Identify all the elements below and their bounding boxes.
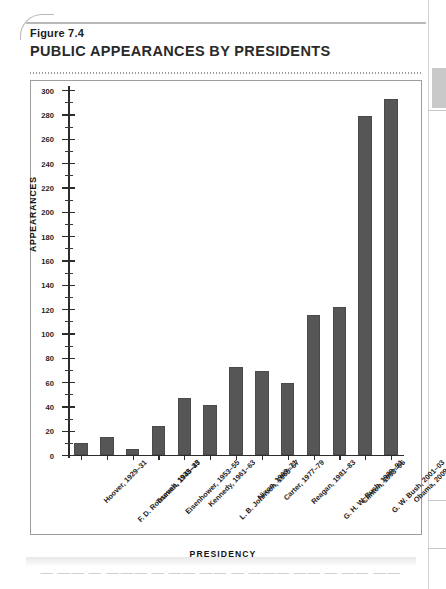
page-bottom-text-blur: ⸺ ⸺⸺ ⸺ ⸺⸺⸺ ⸺ ⸺⸺ ⸺⸺ ⸺ ⸺⸺⸺ ⸺⸺ ⸺ ⸺⸺ ⸺⸺⸺ ⸺ ⸺…: [40, 567, 400, 575]
y-tick-label: 160: [41, 257, 54, 266]
bar: [281, 383, 295, 455]
figure-title: PUBLIC APPEARANCES BY PRESIDENTS: [30, 42, 410, 61]
bar: [255, 371, 269, 455]
y-tick-label: 80: [46, 354, 54, 363]
y-tick-label: 200: [41, 208, 54, 217]
figure-divider: [30, 72, 422, 74]
y-tick-label: 100: [41, 330, 54, 339]
bar: [126, 449, 140, 455]
bar: [100, 437, 114, 455]
page-edge-tab: [432, 68, 446, 108]
y-tick-label: 280: [41, 111, 54, 120]
y-tick-label: 240: [41, 159, 54, 168]
y-tick-label: 180: [41, 232, 54, 241]
y-tick-label: 220: [41, 184, 54, 193]
bar: [203, 405, 217, 455]
y-tick-label: 140: [41, 281, 54, 290]
bar-series: [68, 90, 404, 455]
y-tick-label: 40: [46, 403, 54, 412]
y-tick-label: 260: [41, 135, 54, 144]
bar: [152, 426, 166, 455]
bar: [74, 443, 88, 455]
bar: [178, 398, 192, 455]
bar: [358, 116, 372, 455]
page-top-rule: [26, 22, 426, 24]
bar: [307, 315, 321, 455]
page-bottom-shadow: [26, 557, 416, 567]
x-axis-category-labels: Hoover, 1929–31F. D. Roosevelt, 1933–35T…: [0, 458, 446, 548]
figure-page: Figure 7.4 PUBLIC APPEARANCES BY PRESIDE…: [0, 0, 446, 589]
y-tick-label: 60: [46, 378, 54, 387]
page-edge-line: [428, 110, 446, 111]
bar: [384, 99, 398, 455]
figure-header: Figure 7.4 PUBLIC APPEARANCES BY PRESIDE…: [30, 26, 410, 61]
y-tick-label: 120: [41, 305, 54, 314]
figure-number: Figure 7.4: [30, 26, 410, 40]
y-tick-label: 300: [41, 86, 54, 95]
y-tick-label: 20: [46, 427, 54, 436]
bar: [229, 367, 243, 455]
x-category-label: Hoover, 1929–31: [102, 458, 149, 505]
bar: [333, 307, 347, 455]
y-axis-title: APPEARANCES: [28, 176, 38, 252]
